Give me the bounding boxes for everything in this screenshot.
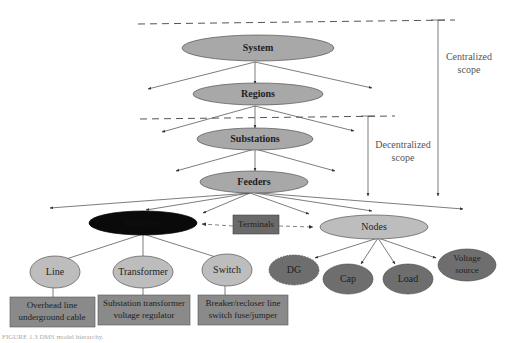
node-regions-label: Regions: [241, 88, 275, 99]
edge: [143, 234, 222, 259]
node-terminals-label: Terminals: [238, 219, 274, 229]
node-feeders-label: Feeders: [237, 176, 270, 187]
node-type-dg-label: DG: [287, 264, 301, 275]
node-type-voltage-source-label-1: Voltage: [453, 253, 480, 263]
node-substations: Substations: [197, 128, 313, 150]
centralized-scope-boundary: [138, 20, 455, 24]
edge: [176, 149, 255, 171]
node-system: System: [182, 35, 334, 61]
node-branches-label: Branches: [124, 217, 161, 228]
node-type-load-label: Load: [398, 273, 419, 284]
node-nodes: Nodes: [320, 215, 428, 239]
node-substations-label: Substations: [230, 133, 280, 144]
centralized-scope-label-2: scope: [458, 64, 481, 75]
decentralized-scope-label-2: scope: [392, 152, 415, 163]
node-type-voltage-source: Voltage source: [438, 249, 496, 281]
node-regions: Regions: [193, 83, 323, 105]
branch-type-transformer: Transformer: [113, 256, 173, 288]
node-type-voltage-source-label-2: source: [455, 265, 479, 275]
branch-example-line-2: underground cable: [18, 312, 85, 322]
branch-type-transformer-label: Transformer: [118, 266, 168, 277]
branch-type-switch-label: Switch: [213, 264, 241, 275]
decentralized-scope-label-1: Decentralized: [375, 139, 431, 150]
dms-hierarchy-diagram: Centralized scope Decentralized scope Sy…: [0, 0, 516, 343]
node-type-cap: Cap: [323, 264, 373, 294]
edge: [361, 238, 378, 264]
branch-example-switch-2: switch fuse/jumper: [209, 310, 278, 320]
edge: [260, 193, 463, 209]
edge: [378, 238, 395, 264]
node-type-load: Load: [383, 264, 433, 294]
branch-example-switch: Breaker/recloser line switch fuse/jumper: [198, 295, 288, 325]
terminal-to-node-arrow: [279, 226, 313, 227]
branch-example-transformer: Substation transformer voltage regulator: [98, 295, 190, 325]
branch-example-line: Overhead line underground cable: [10, 297, 95, 327]
branch-example-transformer-2: voltage regulator: [113, 310, 174, 320]
terminal-to-branch-arrow: [202, 224, 233, 226]
branch-example-line-1: Overhead line: [27, 300, 78, 310]
edge: [255, 106, 354, 131]
figure-caption: FIGURE 1.3 DMS model hierarchy.: [2, 333, 104, 341]
branch-type-line-label: Line: [46, 266, 65, 277]
decentralized-scope-boundary: [140, 116, 395, 119]
branch-example-switch-1: Breaker/recloser line: [205, 298, 280, 308]
node-type-dg: DG: [269, 255, 319, 285]
node-feeders: Feeders: [200, 171, 308, 193]
edge: [146, 193, 250, 210]
branch-example-transformer-1: Substation transformer: [103, 298, 185, 308]
edge: [255, 149, 335, 171]
centralized-scope-label-1: Centralized: [446, 51, 492, 62]
branch-type-switch: Switch: [202, 254, 252, 286]
branch-type-line: Line: [30, 256, 80, 288]
node-branches: Branches: [89, 211, 197, 235]
node-nodes-label: Nodes: [361, 221, 387, 232]
node-terminals: Terminals: [233, 215, 279, 234]
edge: [255, 193, 372, 211]
edge: [315, 238, 378, 258]
node-type-cap-label: Cap: [340, 273, 356, 284]
edge: [378, 238, 436, 258]
node-system-label: System: [243, 42, 274, 53]
